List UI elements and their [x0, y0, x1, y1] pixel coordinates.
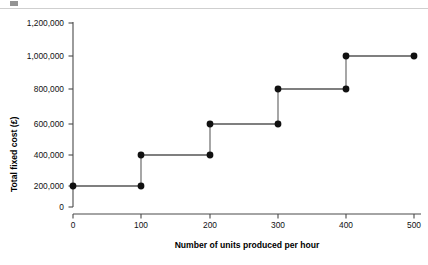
- data-point-markers: [70, 53, 418, 190]
- y-axis-tick-labels: 0 200,000 400,000 600,000 800,000 1,000,…: [27, 18, 65, 212]
- x-axis-title: Number of units produced per hour: [175, 240, 320, 250]
- data-point: [138, 152, 145, 159]
- x-axis-tick-labels: 0 100 200 300 400 500: [71, 220, 422, 230]
- chart-container: 0 200,000 400,000 600,000 800,000 1,000,…: [0, 0, 428, 265]
- step-risers: [141, 56, 346, 186]
- x-tick-label-0: 0: [71, 220, 76, 230]
- y-tick-label-1200000: 1,200,000: [27, 18, 65, 28]
- data-point: [70, 183, 77, 190]
- data-point: [275, 121, 282, 128]
- y-axis-group: 0 200,000 400,000 600,000 800,000 1,000,…: [9, 18, 73, 212]
- y-tick-label-1000000: 1,000,000: [27, 51, 65, 61]
- y-axis-title: Total fixed cost (£): [9, 117, 19, 192]
- step-chart-svg: 0 200,000 400,000 600,000 800,000 1,000,…: [0, 0, 428, 265]
- y-tick-label-600000: 600,000: [34, 119, 65, 129]
- x-axis-ticks: [73, 214, 414, 219]
- y-tick-label-200000: 200,000: [34, 181, 65, 191]
- data-point: [343, 53, 350, 60]
- x-tick-label-200: 200: [203, 220, 217, 230]
- y-tick-label-400000: 400,000: [34, 150, 65, 160]
- x-tick-label-100: 100: [134, 220, 148, 230]
- y-tick-label-0: 0: [59, 202, 64, 212]
- x-tick-label-500: 500: [407, 220, 421, 230]
- y-tick-label-800000: 800,000: [34, 84, 65, 94]
- x-tick-label-400: 400: [339, 220, 353, 230]
- y-axis-ticks: [69, 23, 74, 207]
- data-point: [207, 152, 214, 159]
- data-point: [343, 86, 350, 93]
- data-point: [207, 121, 214, 128]
- x-tick-label-300: 300: [271, 220, 285, 230]
- step-treads: [73, 56, 414, 186]
- data-point: [138, 183, 145, 190]
- step-series: [70, 53, 418, 190]
- data-point: [275, 86, 282, 93]
- x-axis-group: 0 100 200 300 400 500 Number of units pr…: [71, 214, 422, 250]
- data-point: [411, 53, 418, 60]
